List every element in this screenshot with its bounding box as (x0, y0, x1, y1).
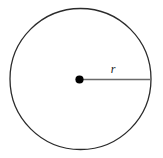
center-dot (75, 75, 83, 83)
figure-canvas: r (0, 0, 163, 158)
circle-diagram-svg: r (0, 0, 163, 158)
radius-label: r (111, 62, 116, 76)
